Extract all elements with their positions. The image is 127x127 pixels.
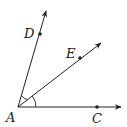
angle-diagram: A D E C — [0, 0, 127, 127]
angle-arc-eac — [32, 96, 36, 107]
label-a: A — [5, 110, 15, 125]
label-c: C — [92, 111, 102, 126]
angle-arc-dae — [21, 96, 27, 100]
point-d — [38, 32, 42, 36]
ray-ae — [18, 43, 101, 107]
label-e: E — [65, 46, 76, 61]
point-c — [95, 105, 99, 109]
point-e — [78, 56, 82, 60]
label-d: D — [23, 26, 35, 41]
